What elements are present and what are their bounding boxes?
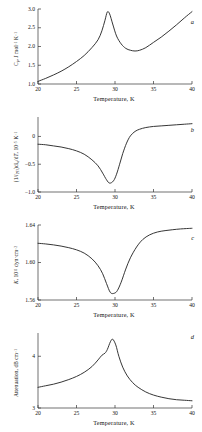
axis-spines <box>38 225 192 300</box>
axis-spines <box>38 9 192 84</box>
x-tick-label: 25 <box>67 410 87 416</box>
y-axis-label: Cp, J mol−1 K−1 <box>14 6 20 92</box>
x-tick-label: 40 <box>182 86 202 92</box>
x-tick-label: 30 <box>105 302 125 308</box>
figure-root: 1.01.52.02.53.02025303540Temperature, KC… <box>0 0 202 432</box>
x-tick-label: 30 <box>105 194 125 200</box>
x-tick-label: 25 <box>67 86 87 92</box>
x-tick-label: 40 <box>182 302 202 308</box>
panel-b: −1.0−0.502025303540Temperature, K(1/l293… <box>0 108 202 216</box>
x-tick-label: 20 <box>28 194 48 200</box>
panel-letter-c: c <box>191 234 194 241</box>
panel-letter-d: d <box>191 333 194 340</box>
axis-spines <box>38 333 192 408</box>
y-axis-label: Attenuation, dB cm−1 <box>14 330 19 416</box>
x-axis-label: Temperature, K <box>34 419 194 426</box>
x-tick-label: 35 <box>144 302 164 308</box>
panel-d: 342025303540Temperature, KAttenuation, d… <box>0 324 202 432</box>
y-axis-label: (1/l293)dla/dT, 10−5 K−1 <box>14 114 20 200</box>
x-tick-label: 40 <box>182 194 202 200</box>
x-tick-label: 35 <box>144 194 164 200</box>
data-curve-a <box>38 12 192 82</box>
x-tick-label: 40 <box>182 410 202 416</box>
x-tick-label: 35 <box>144 86 164 92</box>
x-tick-label: 35 <box>144 410 164 416</box>
panel-c: 1.561.601.642025303540Temperature, KK, 1… <box>0 216 202 324</box>
data-curve-d <box>38 339 192 401</box>
x-axis-label: Temperature, K <box>34 203 194 210</box>
y-axis-label: K, 1011 dyn·cm−2 <box>14 222 19 308</box>
data-curve-c <box>38 228 192 293</box>
x-tick-label: 20 <box>28 86 48 92</box>
panel-letter-b: b <box>191 126 194 133</box>
x-tick-label: 20 <box>28 410 48 416</box>
x-tick-label: 20 <box>28 302 48 308</box>
x-tick-label: 30 <box>105 86 125 92</box>
x-tick-label: 25 <box>67 302 87 308</box>
data-curve-b <box>38 124 192 183</box>
x-axis-label: Temperature, K <box>34 311 194 318</box>
x-tick-label: 25 <box>67 194 87 200</box>
panel-letter-a: a <box>191 18 194 25</box>
x-axis-label: Temperature, K <box>34 95 194 102</box>
panel-a: 1.01.52.02.53.02025303540Temperature, KC… <box>0 0 202 108</box>
axis-spines <box>38 117 192 192</box>
x-tick-label: 30 <box>105 410 125 416</box>
